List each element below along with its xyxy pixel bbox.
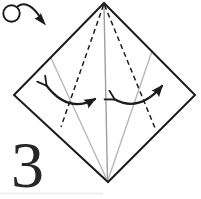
left-side-crease	[51, 58, 107, 180]
turn-over-icon-tail	[18, 4, 41, 17]
center-crease	[104, 5, 108, 180]
right-fold-unfold-arrow	[114, 86, 162, 104]
origami-step-panel: 3	[0, 0, 201, 199]
turn-over-icon-head	[35, 13, 47, 26]
step-number: 3	[11, 132, 42, 198]
turn-over-icon	[3, 5, 19, 21]
left-valley-fold-line	[61, 5, 104, 127]
